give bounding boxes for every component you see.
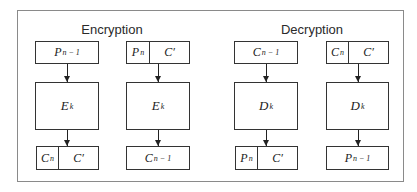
arrow-down-icon (266, 64, 267, 82)
dec-col2-output-block: Pn − 1 (326, 146, 389, 170)
arrow-down-icon (67, 64, 68, 82)
enc-col2-cipher-block: Ek (126, 82, 190, 130)
op-main-label: D (351, 98, 360, 114)
block-sub-label: n − 1 (262, 48, 279, 57)
dec-col1-output-first-cell: Pn (236, 147, 258, 169)
enc-col2-op-sub: k (161, 102, 165, 111)
cell-main-label: P (132, 45, 139, 60)
arrow-down-icon (358, 64, 359, 82)
arrow-down-icon (358, 130, 359, 146)
enc-col1-input-block: Pn − 1 (35, 41, 99, 64)
enc-col1-cipher-block: Ek (35, 82, 99, 130)
enc-col1-output-first-cell: Cn (37, 147, 59, 169)
encryption-title: Encryption (81, 22, 142, 37)
dec-col1-output-block: Pn C′ (235, 146, 298, 170)
enc-col2-input-block: Pn C′ (126, 41, 190, 64)
cell-sub-label: n (249, 154, 253, 163)
arrow-down-icon (67, 130, 68, 146)
cell-main-label: C′ (363, 45, 374, 60)
cell-main-label: C′ (73, 151, 84, 166)
arrow-down-icon (158, 130, 159, 146)
enc-col2-op-main: E (152, 98, 160, 114)
dec-col1-output-second-cell: C′ (258, 147, 297, 169)
dec-col2-input-second-cell: C′ (349, 42, 388, 63)
op-sub-label: k (361, 102, 365, 111)
arrow-down-icon (158, 64, 159, 82)
dec-col2-input-first-cell: Cn (327, 42, 349, 63)
block-main-label: P (345, 151, 352, 166)
enc-col1-input-sub: n − 1 (62, 48, 79, 57)
decryption-title: Decryption (281, 22, 343, 37)
enc-col1-output-second-cell: C′ (59, 147, 98, 169)
dec-col1-input-block: Cn − 1 (234, 41, 298, 64)
block-sub-label: n − 1 (353, 154, 370, 163)
enc-col1-op-main: E (61, 98, 69, 114)
cell-sub-label: n (140, 48, 144, 57)
arrow-down-icon (266, 130, 267, 146)
dec-col1-cipher-block: Dk (234, 82, 298, 130)
dec-col2-cipher-block: Dk (326, 82, 389, 130)
op-main-label: D (259, 98, 268, 114)
enc-col1-output-block: Cn C′ (36, 146, 99, 170)
op-sub-label: k (269, 102, 273, 111)
enc-col2-input-first-cell: Pn (127, 42, 150, 63)
enc-col2-output-block: Cn − 1 (126, 146, 190, 170)
cell-main-label: C (331, 45, 339, 60)
enc-col1-op-sub: k (70, 102, 74, 111)
block-sub-label: n − 1 (154, 154, 171, 163)
cell-main-label: C′ (272, 151, 283, 166)
enc-col2-input-second-cell: C′ (150, 42, 189, 63)
block-main-label: C (253, 45, 261, 60)
block-main-label: C (145, 151, 153, 166)
cell-sub-label: n (340, 48, 344, 57)
dec-col2-input-block: Cn C′ (326, 41, 389, 64)
cell-main-label: P (240, 151, 247, 166)
cell-main-label: C′ (164, 45, 175, 60)
cell-main-label: C (41, 151, 49, 166)
cell-sub-label: n (50, 154, 54, 163)
enc-col1-input-main: P (54, 45, 61, 60)
